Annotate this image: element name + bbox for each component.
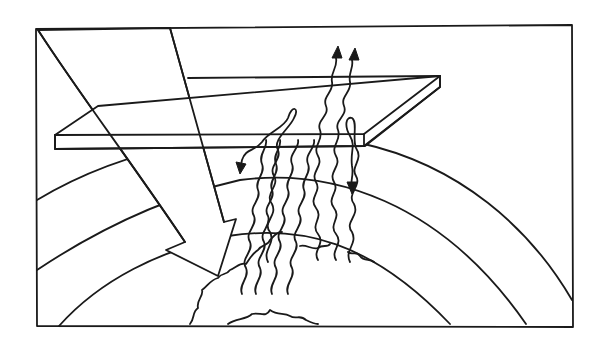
atmosphere-layer-outer xyxy=(37,134,572,300)
wave-arrowhead-down-left xyxy=(236,162,246,174)
infrared-rays xyxy=(236,46,359,294)
atmosphere-layer-inner xyxy=(59,233,450,326)
greenhouse-diagram xyxy=(0,0,598,343)
atmosphere-layers xyxy=(37,134,572,326)
wave-arrowhead-up-2 xyxy=(349,48,359,60)
wave-arrowhead-up-1 xyxy=(332,46,342,58)
atmosphere-layer-middle xyxy=(37,178,526,324)
incoming-solar-radiation-arrow[interactable] xyxy=(38,28,236,276)
wave-rising-1[interactable] xyxy=(241,140,266,294)
